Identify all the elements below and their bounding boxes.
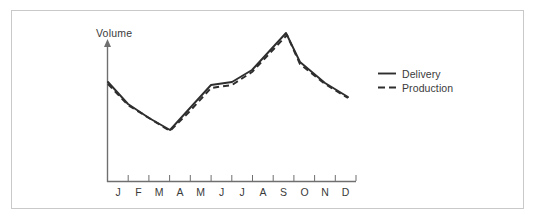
x-label-nov: N: [317, 186, 333, 198]
x-label-aug: A: [255, 186, 271, 198]
legend-label-delivery: Delivery: [402, 68, 441, 80]
x-axis-ticks: [108, 175, 357, 181]
x-label-mar: M: [151, 186, 167, 198]
x-label-apr: A: [172, 186, 188, 198]
y-axis: [104, 39, 111, 182]
x-label-feb: F: [131, 186, 147, 198]
x-label-jul: J: [234, 186, 250, 198]
figure-root: Volume J F M A M J J A S O N D Delivery …: [0, 0, 537, 220]
x-label-dec: D: [338, 186, 354, 198]
x-axis: [107, 175, 356, 182]
y-axis-title: Volume: [96, 27, 132, 39]
x-label-oct: O: [297, 186, 313, 198]
y-axis-arrow-icon: [104, 39, 111, 47]
x-label-jan: J: [110, 186, 126, 198]
x-label-may: M: [193, 186, 209, 198]
x-label-sep: S: [276, 186, 292, 198]
legend-swatches: [378, 74, 396, 88]
x-label-jun: J: [214, 186, 230, 198]
legend-label-production: Production: [402, 82, 453, 94]
series-line-delivery: [108, 33, 348, 130]
